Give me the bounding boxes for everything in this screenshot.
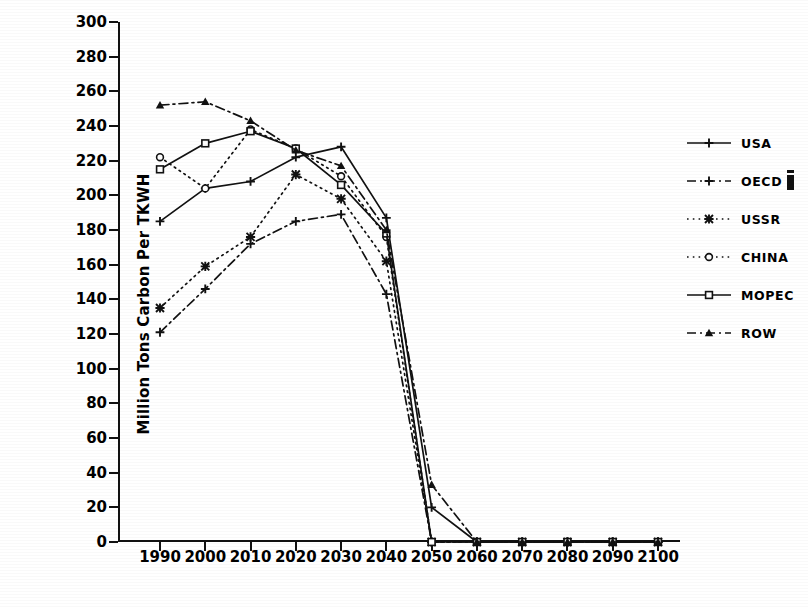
data-point-marker [247, 128, 254, 135]
x-tick-label: 2050 [411, 548, 453, 566]
x-tick-label: 2020 [275, 548, 317, 566]
legend-item-oecd[interactable]: OECD [686, 162, 806, 200]
data-point-marker [246, 177, 255, 186]
scan-artifact-mark [787, 173, 794, 190]
y-tick-label: 20 [86, 498, 107, 516]
series-china [157, 126, 662, 545]
data-point-marker [706, 292, 713, 299]
y-tick [109, 229, 118, 231]
y-tick [109, 194, 118, 196]
plot-area: 3002802602402202001801601401201008060402… [118, 22, 680, 542]
data-point-marker [338, 182, 345, 189]
y-tick-label: 80 [86, 394, 107, 412]
series-usa [156, 142, 663, 546]
chart-root: Million Tons Carbon Per TKWH 30028026024… [0, 0, 808, 607]
data-point-marker [202, 185, 209, 192]
y-tick [109, 298, 118, 300]
legend-item-row[interactable]: ROW [686, 314, 806, 352]
legend-item-ussr[interactable]: USSR [686, 200, 806, 238]
x-tick-label: 2070 [501, 548, 543, 566]
y-tick-label: 200 [76, 186, 107, 204]
series-mopec [157, 128, 662, 546]
legend-sample-row [686, 326, 732, 340]
data-point-marker [157, 154, 164, 161]
data-point-marker [382, 290, 391, 299]
legend-sample-usa [686, 136, 732, 150]
data-point-marker [246, 117, 254, 124]
y-tick [109, 21, 118, 23]
y-tick [109, 506, 118, 508]
data-point-marker [246, 232, 255, 241]
series-line [160, 147, 658, 542]
legend-item-usa[interactable]: USA [686, 124, 806, 162]
data-point-marker [705, 139, 714, 148]
data-point-marker [157, 166, 164, 173]
x-tick-label: 2080 [547, 548, 589, 566]
y-tick-label: 260 [76, 82, 107, 100]
legend: USAOECDUSSRCHINAMOPECROW [686, 124, 806, 352]
x-tick-label: 1990 [139, 548, 181, 566]
legend-label: USSR [741, 212, 781, 227]
y-tick-label: 160 [76, 255, 107, 273]
legend-sample-ussr [686, 212, 732, 226]
legend-label: USA [741, 136, 772, 151]
data-point-marker [337, 210, 346, 219]
y-tick-label: 60 [86, 429, 107, 447]
x-tick-label: 2090 [592, 548, 634, 566]
y-tick-label: 280 [76, 47, 107, 65]
data-point-marker [705, 177, 714, 186]
y-tick-label: 220 [76, 151, 107, 169]
y-tick-label: 180 [76, 221, 107, 239]
y-tick-label: 300 [76, 13, 107, 31]
data-point-marker [706, 254, 713, 261]
legend-item-mopec[interactable]: MOPEC [686, 276, 806, 314]
y-tick-label: 240 [76, 117, 107, 135]
series-line [160, 214, 658, 542]
legend-label: MOPEC [741, 288, 794, 303]
data-point-marker [291, 217, 300, 226]
legend-label: OECD [741, 174, 782, 189]
y-tick-label: 140 [76, 290, 107, 308]
data-point-marker [291, 153, 300, 162]
y-tick-label: 100 [76, 359, 107, 377]
series-line [160, 102, 658, 542]
data-point-marker [155, 303, 164, 312]
data-point-marker [337, 142, 346, 151]
y-tick [109, 90, 118, 92]
y-tick-label: 0 [97, 533, 107, 551]
x-tick-label: 2010 [230, 548, 272, 566]
data-point-marker [382, 213, 391, 222]
y-tick [109, 541, 118, 543]
data-point-marker [291, 170, 300, 179]
series-line [160, 129, 658, 542]
legend-sample-mopec [686, 288, 732, 302]
y-tick [109, 160, 118, 162]
data-point-marker [336, 194, 345, 203]
x-tick-label: 2030 [320, 548, 362, 566]
data-point-marker [202, 140, 209, 147]
y-tick [109, 56, 118, 58]
legend-label: CHINA [741, 250, 788, 265]
y-tick [109, 125, 118, 127]
x-tick-label: 2040 [365, 548, 407, 566]
y-tick-label: 40 [86, 463, 107, 481]
data-point-marker [338, 173, 345, 180]
legend-label: ROW [741, 326, 777, 341]
y-tick [109, 368, 118, 370]
series-oecd [156, 210, 663, 546]
y-tick [109, 333, 118, 335]
y-tick [109, 437, 118, 439]
series-line [160, 131, 658, 542]
data-point-marker [428, 539, 435, 546]
data-point-marker [704, 214, 713, 223]
legend-item-china[interactable]: CHINA [686, 238, 806, 276]
data-point-marker [201, 262, 210, 271]
y-tick-label: 120 [76, 325, 107, 343]
legend-sample-china [686, 250, 732, 264]
y-tick [109, 264, 118, 266]
series-row [156, 98, 662, 546]
y-tick [109, 472, 118, 474]
series-layer [118, 22, 680, 542]
y-tick [109, 402, 118, 404]
legend-sample-oecd [686, 174, 732, 188]
